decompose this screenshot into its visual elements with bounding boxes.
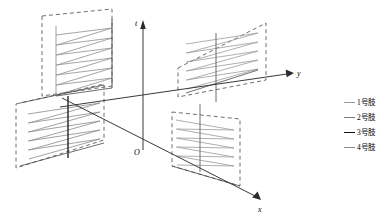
- legend-swatch-line-4: [344, 147, 355, 148]
- lower-right-plane: [172, 104, 240, 186]
- lower-left-plane-top-edge: [20, 85, 104, 103]
- origin-label: O: [134, 148, 140, 157]
- lower-left-plane: [16, 84, 104, 168]
- t-axis-arrowhead: [140, 20, 146, 29]
- upper-right-hatch-group: [186, 33, 258, 89]
- t-axis-label: t: [135, 19, 138, 28]
- legend-swatch-line-3: [344, 132, 355, 133]
- upper-right-plane: [178, 23, 266, 102]
- upper-right-plane-bottom-edge: [186, 70, 258, 93]
- legend-item-2: 2号肢: [344, 110, 386, 125]
- legend: 1号肢 2号肢 3号肢 4号肢: [344, 95, 386, 155]
- legend-item-4: 4号肢: [344, 140, 386, 155]
- legend-swatch-line-1: [344, 102, 355, 103]
- y-axis-label: y: [296, 69, 301, 78]
- three-axis-gait-diagram: t y x O: [0, 0, 386, 221]
- axes-group: t y x O: [60, 19, 301, 214]
- lower-right-plane-outline: [172, 112, 240, 186]
- legend-item-1: 1号肢: [344, 95, 386, 110]
- legend-swatch-line-2: [344, 117, 355, 118]
- legend-item-3: 3号肢: [344, 125, 386, 140]
- legend-label-1: 1号肢: [357, 98, 375, 107]
- legend-label-4: 4号肢: [357, 143, 375, 152]
- lower-left-plane-bottom-edge: [20, 143, 104, 166]
- lower-right-hatch-group: [176, 120, 234, 166]
- upper-left-plane: [42, 9, 143, 108]
- y-axis-arrowhead: [286, 70, 294, 78]
- legend-label-3: 3号肢: [357, 128, 375, 137]
- legend-label-2: 2号肢: [357, 113, 375, 122]
- x-axis-label: x: [257, 205, 262, 214]
